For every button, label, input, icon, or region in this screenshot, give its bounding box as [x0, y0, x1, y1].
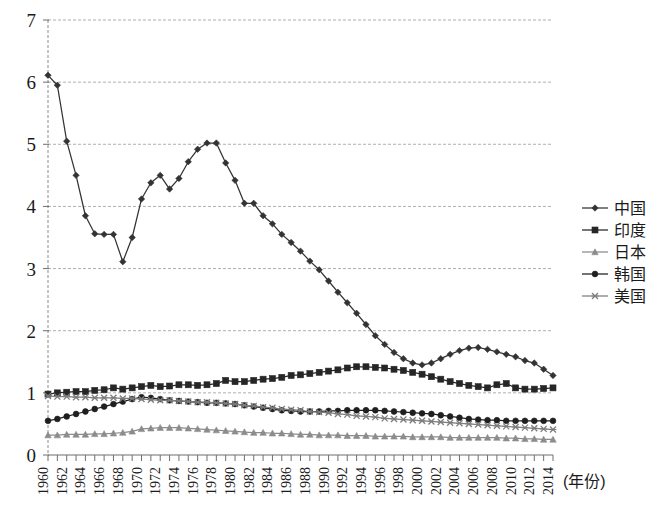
data-point-square-marker [157, 384, 163, 390]
data-point-circle-marker [54, 416, 60, 422]
data-point-square-marker [167, 383, 173, 389]
data-point-square-marker [260, 376, 266, 382]
data-point-circle-marker [592, 271, 598, 277]
data-point-square-marker [204, 382, 210, 388]
data-point-circle-marker [447, 414, 453, 420]
data-point-circle-marker [541, 418, 547, 424]
data-point-x-marker [363, 413, 370, 419]
legend-item-日本[interactable]: 日本 [582, 244, 646, 261]
data-point-diamond-marker [120, 259, 126, 265]
data-point-diamond-marker [232, 177, 238, 183]
legend-label: 美国 [614, 288, 646, 305]
data-point-square-marker [447, 379, 453, 385]
series-0 [45, 72, 556, 379]
data-point-square-marker [148, 382, 154, 388]
y-tick-label: 3 [27, 259, 37, 280]
data-point-circle-marker [120, 399, 126, 405]
data-point-circle-marker [45, 418, 51, 424]
data-point-x-marker [372, 414, 379, 420]
legend-item-美国[interactable]: 美国 [582, 288, 646, 305]
data-point-diamond-marker [550, 372, 556, 378]
data-point-square-marker [176, 382, 182, 388]
data-point-diamond-marker [456, 347, 462, 353]
x-tick-label: 1978 [204, 467, 219, 495]
x-tick-label: 1996 [373, 467, 388, 495]
data-point-square-marker [139, 384, 145, 390]
legend-item-中国[interactable]: 中国 [582, 200, 646, 217]
x-tick-label: 1980 [223, 467, 238, 495]
data-point-square-marker [531, 386, 537, 392]
data-point-diamond-marker [592, 205, 598, 211]
data-point-diamond-marker [475, 344, 481, 350]
data-point-circle-marker [531, 418, 537, 424]
data-point-diamond-marker [101, 231, 107, 237]
data-point-square-marker [485, 385, 491, 391]
data-point-diamond-marker [129, 234, 135, 240]
data-point-circle-marker [522, 418, 528, 424]
legend-item-印度[interactable]: 印度 [582, 222, 646, 239]
x-tick-label: 2008 [485, 467, 500, 495]
data-point-diamond-marker [64, 138, 70, 144]
data-point-circle-marker [73, 411, 79, 417]
data-point-circle-marker [550, 418, 556, 424]
data-point-square-marker [232, 379, 238, 385]
data-point-square-marker [475, 384, 481, 390]
data-point-x-marker [456, 420, 463, 426]
x-tick-label: 2010 [504, 467, 519, 495]
y-tick-label: 1 [27, 383, 37, 404]
data-point-x-marker [409, 417, 416, 423]
x-axis-title: (年份) [563, 473, 606, 490]
data-point-diamond-marker [138, 196, 144, 202]
x-tick-label: 2006 [466, 467, 481, 495]
data-point-square-marker [391, 366, 397, 372]
data-point-square-marker [400, 367, 406, 373]
data-point-circle-marker [382, 408, 388, 414]
data-point-square-marker [82, 389, 88, 395]
data-point-x-marker [531, 425, 538, 431]
data-point-x-marker [82, 394, 89, 400]
x-tick-label: 1988 [298, 467, 313, 495]
data-point-circle-marker [335, 408, 341, 414]
data-point-square-marker [592, 227, 598, 233]
x-tick-label: 1960 [36, 467, 51, 495]
x-tick-label: 2004 [447, 467, 462, 495]
data-point-square-marker [195, 382, 201, 388]
data-point-x-marker [540, 426, 547, 432]
data-point-square-marker [513, 385, 519, 391]
data-point-diamond-marker [466, 345, 472, 351]
data-point-x-marker [550, 427, 557, 433]
x-tick-label: 1990 [317, 467, 332, 495]
data-point-circle-marker [354, 407, 360, 413]
y-tick-label: 4 [27, 196, 37, 217]
gridlines-group [48, 20, 553, 393]
x-tick-label: 1964 [73, 467, 88, 495]
data-point-diamond-marker [82, 213, 88, 219]
data-point-circle-marker [410, 410, 416, 416]
x-tick-label: 1986 [279, 467, 294, 495]
data-point-square-marker [503, 381, 509, 387]
data-point-circle-marker [400, 409, 406, 415]
data-point-x-marker [419, 418, 426, 424]
data-point-square-marker [363, 364, 369, 370]
data-point-diamond-marker [484, 346, 490, 352]
data-point-square-marker [354, 364, 360, 370]
data-point-circle-marker [92, 406, 98, 412]
data-point-square-marker [541, 386, 547, 392]
data-point-x-marker [437, 419, 444, 425]
y-tick-label: 6 [27, 72, 37, 93]
data-point-square-marker [251, 377, 257, 383]
data-point-x-marker [381, 415, 388, 421]
data-point-diamond-marker [438, 355, 444, 361]
data-point-circle-marker [64, 414, 70, 420]
x-tick-label: 1970 [130, 467, 145, 495]
legend[interactable]: 中国印度日本韩国美国 [582, 200, 646, 305]
data-point-square-marker [101, 387, 107, 393]
legend-item-韩国[interactable]: 韩国 [582, 266, 646, 283]
data-point-diamond-marker [419, 362, 425, 368]
data-point-square-marker [466, 382, 472, 388]
data-point-square-marker [456, 381, 462, 387]
axes-group [43, 20, 553, 461]
data-point-diamond-marker [204, 140, 210, 146]
data-point-square-marker [344, 365, 350, 371]
y-tick-label: 5 [27, 134, 37, 155]
